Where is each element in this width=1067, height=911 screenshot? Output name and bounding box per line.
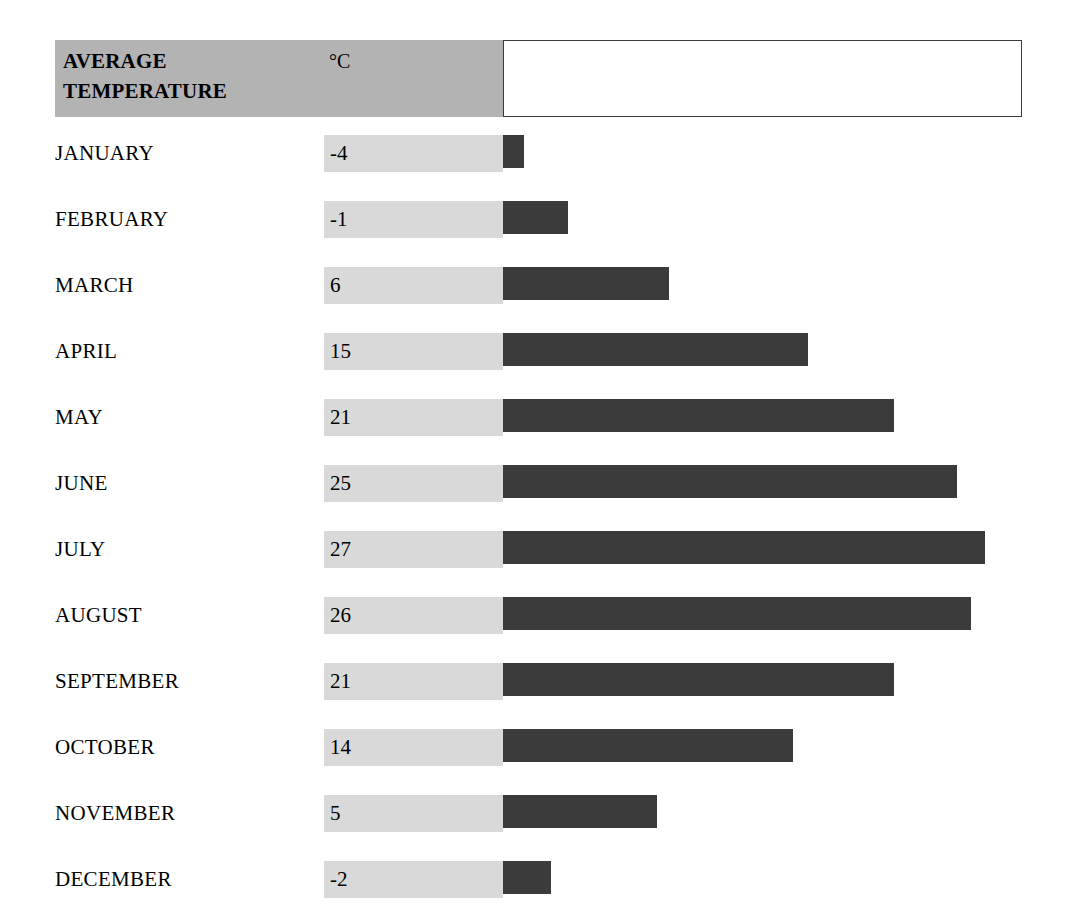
header-gray-band: AVERAGE TEMPERATURE °C bbox=[55, 40, 503, 117]
value-bar bbox=[503, 597, 971, 630]
value-cell: 21 bbox=[324, 663, 503, 700]
value-cell: 25 bbox=[324, 465, 503, 502]
value-bar bbox=[503, 201, 568, 234]
value-cell: -2 bbox=[324, 861, 503, 898]
value-cell: 14 bbox=[324, 729, 503, 766]
header-value-box bbox=[503, 40, 1022, 117]
table-row: APRIL15 bbox=[0, 333, 1067, 399]
value-label: -4 bbox=[330, 135, 348, 172]
value-cell: -4 bbox=[324, 135, 503, 172]
month-label: JANUARY bbox=[55, 135, 154, 172]
month-label: MAY bbox=[55, 399, 103, 436]
month-label: JULY bbox=[55, 531, 105, 568]
chart-header: AVERAGE TEMPERATURE °C bbox=[55, 40, 1022, 117]
table-row: MARCH6 bbox=[0, 267, 1067, 333]
value-bar bbox=[503, 729, 793, 762]
month-label: OCTOBER bbox=[55, 729, 155, 766]
month-label: FEBRUARY bbox=[55, 201, 168, 238]
value-cell: 6 bbox=[324, 267, 503, 304]
value-label: -1 bbox=[330, 201, 348, 238]
value-bar bbox=[503, 465, 957, 498]
value-bar bbox=[503, 861, 551, 894]
month-label: SEPTEMBER bbox=[55, 663, 179, 700]
month-label: DECEMBER bbox=[55, 861, 172, 898]
temperature-bar-chart: AVERAGE TEMPERATURE °C JANUARY-4FEBRUARY… bbox=[0, 0, 1067, 911]
table-row: NOVEMBER5 bbox=[0, 795, 1067, 861]
value-label: 14 bbox=[330, 729, 351, 766]
value-bar bbox=[503, 399, 894, 432]
value-label: 21 bbox=[330, 663, 351, 700]
value-bar bbox=[503, 531, 985, 564]
value-label: 25 bbox=[330, 465, 351, 502]
value-bar bbox=[503, 333, 808, 366]
value-cell: 21 bbox=[324, 399, 503, 436]
table-row: MAY21 bbox=[0, 399, 1067, 465]
value-cell: 5 bbox=[324, 795, 503, 832]
value-bar bbox=[503, 663, 894, 696]
chart-rows: JANUARY-4FEBRUARY-1MARCH6APRIL15MAY21JUN… bbox=[0, 135, 1067, 911]
value-label: 5 bbox=[330, 795, 341, 832]
value-label: 27 bbox=[330, 531, 351, 568]
table-row: DECEMBER-2 bbox=[0, 861, 1067, 911]
table-row: FEBRUARY-1 bbox=[0, 201, 1067, 267]
value-bar bbox=[503, 135, 524, 168]
month-label: JUNE bbox=[55, 465, 108, 502]
page-title: AVERAGE TEMPERATURE bbox=[63, 46, 363, 106]
value-label: 21 bbox=[330, 399, 351, 436]
value-label: 15 bbox=[330, 333, 351, 370]
value-cell: -1 bbox=[324, 201, 503, 238]
month-label: APRIL bbox=[55, 333, 117, 370]
table-row: AUGUST26 bbox=[0, 597, 1067, 663]
unit-label: °C bbox=[329, 46, 350, 76]
value-label: -2 bbox=[330, 861, 348, 898]
table-row: SEPTEMBER21 bbox=[0, 663, 1067, 729]
table-row: JULY27 bbox=[0, 531, 1067, 597]
table-row: JUNE25 bbox=[0, 465, 1067, 531]
value-cell: 15 bbox=[324, 333, 503, 370]
value-bar bbox=[503, 795, 657, 828]
month-label: AUGUST bbox=[55, 597, 142, 634]
table-row: OCTOBER14 bbox=[0, 729, 1067, 795]
month-label: NOVEMBER bbox=[55, 795, 175, 832]
value-bar bbox=[503, 267, 669, 300]
month-label: MARCH bbox=[55, 267, 134, 304]
value-label: 26 bbox=[330, 597, 351, 634]
value-cell: 26 bbox=[324, 597, 503, 634]
value-cell: 27 bbox=[324, 531, 503, 568]
table-row: JANUARY-4 bbox=[0, 135, 1067, 201]
value-label: 6 bbox=[330, 267, 341, 304]
